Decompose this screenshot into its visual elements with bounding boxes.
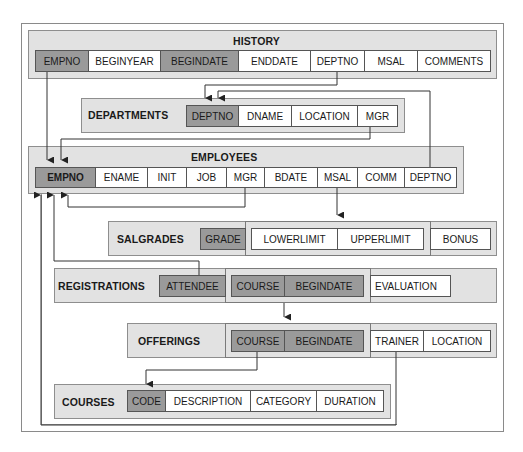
employees-col-ename[interactable]: ENAME xyxy=(95,167,148,188)
employees-col-bdate[interactable]: BDATE xyxy=(264,167,318,188)
registrations-col-evaluation[interactable]: EVALUATION xyxy=(370,275,451,297)
salgrades-col-upperlimit[interactable]: UPPERLIMIT xyxy=(337,228,424,250)
table-title: EMPLOYEES xyxy=(191,151,257,163)
offerings-col-location[interactable]: LOCATION xyxy=(423,330,491,352)
history-col-empno[interactable]: EMPNO xyxy=(35,50,89,72)
courses-col-code[interactable]: CODE xyxy=(127,390,166,412)
table-title: SALGRADES xyxy=(117,233,184,245)
employees-col-init[interactable]: INIT xyxy=(147,167,187,188)
history-col-enddate[interactable]: ENDDATE xyxy=(238,50,311,72)
employees-col-deptno[interactable]: DEPTNO xyxy=(404,167,457,188)
history-col-beginyear[interactable]: BEGINYEAR xyxy=(88,50,161,72)
history-col-msal[interactable]: MSAL xyxy=(364,50,418,72)
registrations-col-course[interactable]: COURSE xyxy=(231,275,285,297)
history-col-comments[interactable]: COMMENTS xyxy=(417,50,491,72)
departments-col-mgr[interactable]: MGR xyxy=(357,105,398,127)
registrations-col-attendee[interactable]: ATTENDEE xyxy=(159,275,226,297)
schema-diagram: HISTORY EMPNO BEGINYEAR BEGINDATE ENDDAT… xyxy=(0,0,523,452)
registrations-col-begindate[interactable]: BEGINDATE xyxy=(284,275,364,297)
employees-col-empno[interactable]: EMPNO xyxy=(35,167,96,188)
departments-col-location[interactable]: LOCATION xyxy=(291,105,358,127)
table-title: REGISTRATIONS xyxy=(58,280,145,292)
offerings-col-course[interactable]: COURSE xyxy=(231,330,285,352)
courses-col-category[interactable]: CATEGORY xyxy=(250,390,317,412)
salgrades-col-bonus[interactable]: BONUS xyxy=(430,228,491,250)
offerings-col-begindate[interactable]: BEGINDATE xyxy=(284,330,364,352)
salgrades-col-lowerlimit[interactable]: LOWERLIMIT xyxy=(251,228,338,250)
employees-col-mgr[interactable]: MGR xyxy=(226,167,265,188)
table-title: DEPARTMENTS xyxy=(88,109,168,121)
salgrades-col-grade[interactable]: GRADE xyxy=(200,228,246,250)
table-title: OFFERINGS xyxy=(138,335,200,347)
offerings-col-trainer[interactable]: TRAINER xyxy=(370,330,424,352)
table-title: HISTORY xyxy=(233,35,280,47)
courses-col-duration[interactable]: DURATION xyxy=(316,390,384,412)
courses-col-description[interactable]: DESCRIPTION xyxy=(165,390,251,412)
departments-col-deptno[interactable]: DEPTNO xyxy=(186,105,239,127)
employees-col-comm[interactable]: COMM xyxy=(357,167,405,188)
employees-col-msal[interactable]: MSAL xyxy=(317,167,358,188)
table-title: COURSES xyxy=(62,396,115,408)
employees-col-job[interactable]: JOB xyxy=(186,167,227,188)
departments-col-dname[interactable]: DNAME xyxy=(238,105,292,127)
history-col-begindate[interactable]: BEGINDATE xyxy=(160,50,239,72)
history-col-deptno[interactable]: DEPTNO xyxy=(310,50,365,72)
